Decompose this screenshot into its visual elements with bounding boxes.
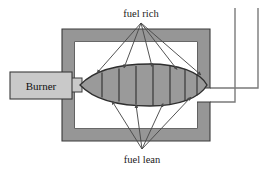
exhaust-duct	[210, 8, 258, 102]
combustion-chamber-diagram: fuel rich fuel lean Burner	[0, 0, 277, 171]
exhaust-duct-outer-wall	[210, 8, 258, 88]
burner-label: Burner	[26, 80, 57, 92]
diagram-canvas: fuel rich fuel lean Burner	[0, 0, 277, 171]
fuel-lean-label: fuel lean	[124, 154, 161, 165]
fuel-rich-label: fuel rich	[123, 8, 159, 19]
